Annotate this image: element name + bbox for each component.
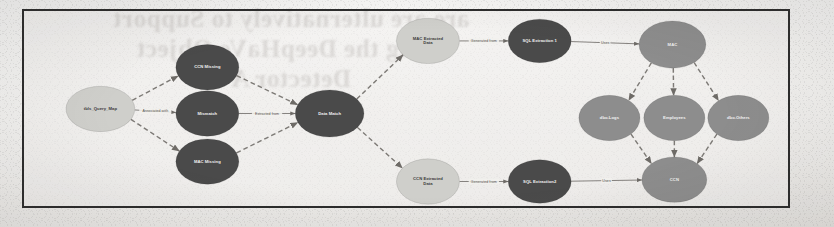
node-layer: tbls_Query_MapCCN MissingMismatchMAC Mis… [66, 18, 769, 204]
node-label: SQL Extraction2 [523, 179, 557, 184]
graph-node-ccn_extracted[interactable]: CCN ExtractedData [396, 159, 459, 204]
graph-node-data_match[interactable]: Data Match [295, 90, 364, 137]
graph-node-ccn[interactable]: CCN [642, 157, 707, 202]
graph-node-employees[interactable]: Employees [644, 95, 705, 140]
node-label: MAC Missing [194, 159, 221, 164]
node-label: dbo.Logs [600, 115, 620, 120]
edge-label: Uses [602, 179, 611, 183]
graph-node-dbo_others[interactable]: dbo.Others [708, 95, 769, 140]
node-label: SQL Extraction 1 [523, 38, 558, 43]
edge-label: Associated with [142, 109, 168, 113]
node-label: Data Match [318, 111, 341, 116]
graph-edge [237, 76, 298, 105]
node-label: dbo.Others [727, 115, 750, 120]
graph-edge [357, 127, 402, 168]
graph-edge [357, 55, 403, 99]
edge-label: Uses [601, 41, 610, 45]
graph-node-mac[interactable]: MAC [639, 21, 706, 68]
graph-node-sql_extraction2[interactable]: SQL Extraction2 [508, 160, 571, 204]
graph-node-ccn_missing[interactable]: CCN Missing [176, 45, 239, 90]
graph-edge [131, 119, 179, 151]
knowledge-graph: Associated withExtracted fromGenerated f… [24, 11, 788, 206]
node-label: Employees [663, 115, 686, 120]
graph-edge [697, 134, 717, 163]
graph-edge [694, 63, 718, 101]
graph-node-table_query_map[interactable]: tbls_Query_Map [66, 86, 135, 131]
scanned-figure-page: are are ulternatively to Support using t… [0, 0, 834, 227]
edge-label: Generated from [471, 39, 497, 43]
graph-edge [629, 63, 652, 101]
figure-frame: Associated withExtracted fromGenerated f… [22, 9, 790, 208]
graph-node-sql_extraction1[interactable]: SQL Extraction 1 [508, 19, 571, 63]
node-label: Data [423, 181, 433, 186]
graph-node-mac_missing[interactable]: MAC Missing [176, 139, 239, 184]
node-label: Mismatch [198, 111, 218, 116]
node-label: Data [423, 41, 433, 46]
graph-node-dbo_logs[interactable]: dbo.Logs [579, 95, 640, 140]
graph-node-mismatch[interactable]: Mismatch [176, 91, 239, 136]
node-label: MAC [668, 42, 678, 47]
graph-edge [132, 76, 178, 100]
graph-edge [236, 123, 297, 153]
node-label: CCN Missing [194, 64, 221, 69]
edge-label: Generated from [471, 180, 497, 184]
graph-edge [631, 134, 651, 164]
graph-node-mac_extracted[interactable]: MAC ExtractedData [396, 18, 459, 63]
node-label: CCN [670, 177, 679, 182]
node-label: tbls_Query_Map [84, 106, 118, 111]
edge-label: Extracted from [255, 112, 279, 116]
